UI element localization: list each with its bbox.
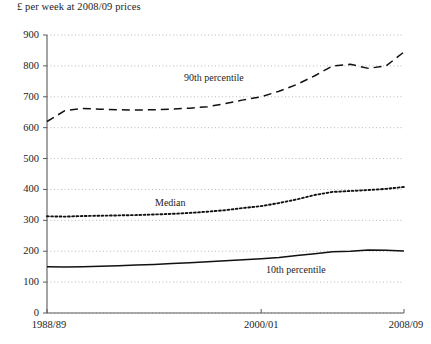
y-tick-label: 100: [5, 277, 39, 288]
series-line-median: [47, 187, 404, 217]
y-tick-label: 700: [5, 92, 39, 103]
y-tick-label: 500: [5, 154, 39, 165]
y-tick-label: 400: [5, 184, 39, 195]
x-tick-label: 1988/89: [32, 320, 66, 331]
x-tick-label: 2000/01: [244, 320, 278, 331]
chart-plot-area: [0, 0, 431, 344]
y-tick-marks-group: [43, 35, 47, 313]
y-tick-label: 200: [5, 246, 39, 257]
chart-container: £ per week at 2008/09 prices 01002003004…: [0, 0, 431, 344]
data-series-group: [47, 52, 404, 267]
series-label-10th-percentile: 10th percentile: [266, 265, 326, 275]
y-tick-label: 600: [5, 123, 39, 134]
series-label-90th-percentile: 90th percentile: [184, 73, 244, 83]
series-line-10th-percentile: [47, 250, 404, 267]
series-label-median: Median: [155, 198, 186, 208]
x-tick-label: 2008/09: [389, 320, 423, 331]
series-line-90th-percentile: [47, 52, 404, 122]
x-tick-marks-group: [47, 309, 404, 313]
y-tick-label: 0: [5, 308, 39, 319]
y-tick-label: 300: [5, 215, 39, 226]
y-tick-label: 900: [5, 30, 39, 41]
y-tick-label: 800: [5, 61, 39, 72]
